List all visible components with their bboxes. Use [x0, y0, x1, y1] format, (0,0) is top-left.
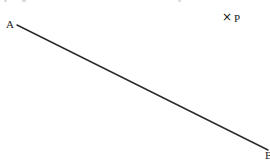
segment-ab [17, 25, 268, 150]
point-b-label: B [265, 150, 270, 161]
point-p-label: P [234, 13, 240, 24]
point-a-label: A [6, 19, 14, 30]
point-p-marker: × [222, 12, 232, 23]
diagram-canvas [0, 0, 270, 164]
